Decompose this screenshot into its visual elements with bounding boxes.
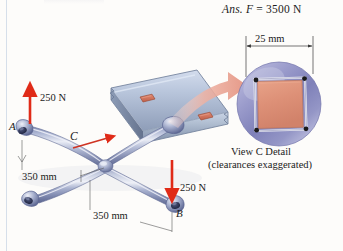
answer-equals: = [256,3,263,15]
arrow-c-direction [73,137,111,148]
detail-caption-line2: (clearances exaggerated) [208,159,312,170]
corner-dot-br [304,126,309,131]
answer-prefix: Ans. [222,3,243,15]
corner-dot-bl [254,128,259,133]
answer-value: 3500 N [266,3,301,15]
force-label-b: 250 N [180,182,206,193]
dimension-label-upper: 350 mm [22,171,57,182]
view-c-detail [237,60,321,146]
corner-dot-tl [254,78,259,83]
point-label-c: C [70,130,78,142]
answer-symbol: F [246,3,253,15]
lug-wrench [16,116,202,212]
corner-dot-tr [302,76,307,81]
detail-caption-line1: View C Detail [231,146,291,157]
dimension-label-25mm: 25 mm [255,33,284,44]
point-label-a: A [9,120,16,132]
dimension-label-lower: 350 mm [93,210,128,221]
point-label-b: B [176,207,183,219]
force-label-a: 250 N [40,92,66,103]
answer-line: Ans. F = 3500 N [222,3,301,15]
mechanics-figure [0,0,343,251]
